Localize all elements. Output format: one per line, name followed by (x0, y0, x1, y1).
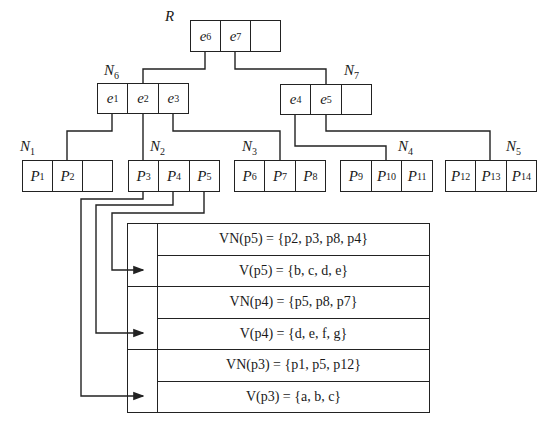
internal-node-n7: e4 e5 (280, 84, 372, 115)
entry-p2: P2 (53, 161, 83, 191)
entry-p8: P8 (296, 161, 325, 191)
node-label-n3: N3 (242, 138, 257, 157)
entry-p7: P7 (265, 161, 295, 191)
entry-p10: P10 (372, 161, 403, 191)
entry-empty (342, 85, 371, 114)
node-label-n7: N7 (344, 62, 359, 81)
node-label-n4: N4 (398, 138, 413, 157)
entry-e4: e4 (281, 85, 311, 114)
entry-e5: e5 (311, 85, 341, 114)
leaf-node-n1: P1 P2 (22, 160, 113, 192)
row-divider (128, 349, 157, 350)
entry-p5: P5 (190, 161, 219, 191)
entry-empty (83, 161, 112, 191)
table-row-v-p5: V(p5) = {b, c, d, e} (158, 256, 429, 288)
entry-p12: P12 (446, 161, 476, 191)
entry-e3: e3 (159, 84, 188, 113)
leaf-node-n5: P12 P13 P14 (445, 160, 537, 192)
node-label-n1: N1 (20, 138, 35, 157)
node-label-r: R (165, 8, 174, 25)
root-node: e6 e7 (190, 20, 281, 52)
entry-e6: e6 (191, 21, 221, 51)
entry-p1: P1 (23, 161, 53, 191)
table-row-vn-p3: VN(p3) = {p1, p5, p12} (158, 350, 429, 382)
entry-e1: e1 (98, 84, 128, 113)
entry-p14: P14 (507, 161, 536, 191)
table-row-vn-p5: VN(p5) = {p2, p3, p8, p4} (158, 224, 429, 256)
internal-node-n6: e1 e2 e3 (97, 83, 189, 114)
table-row-vn-p4: VN(p4) = {p5, p8, p7} (158, 287, 429, 319)
entry-empty (251, 21, 280, 51)
entry-e2: e2 (128, 84, 158, 113)
voronoi-neighbor-table: VN(p5) = {p2, p3, p8, p4} V(p5) = {b, c,… (127, 223, 430, 413)
leaf-node-n3: P6 P7 P8 (234, 160, 326, 192)
entry-p11: P11 (402, 161, 432, 191)
entry-e7: e7 (221, 21, 251, 51)
node-label-n6: N6 (104, 62, 119, 81)
table-row-v-p4: V(p4) = {d, e, f, g} (158, 319, 429, 351)
row-divider (128, 286, 157, 287)
entry-p13: P13 (476, 161, 506, 191)
pointer-gutter (128, 224, 158, 412)
leaf-node-n4: P9 P10 P11 (340, 160, 433, 192)
entry-p3: P3 (129, 161, 159, 191)
entry-p9: P9 (341, 161, 372, 191)
table-row-v-p3: V(p3) = {a, b, c} (158, 382, 429, 413)
node-label-n5: N5 (506, 138, 521, 157)
entry-p6: P6 (235, 161, 265, 191)
entry-p4: P4 (159, 161, 189, 191)
leaf-node-n2: P3 P4 P5 (128, 160, 220, 192)
node-label-n2: N2 (150, 138, 165, 157)
